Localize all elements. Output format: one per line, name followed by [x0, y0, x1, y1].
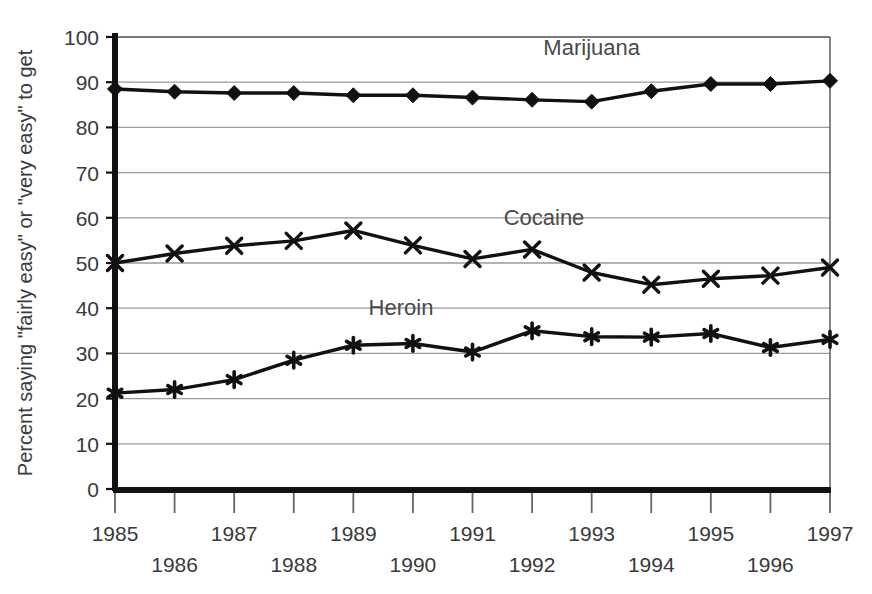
x-axis-ticks — [115, 493, 830, 513]
x-axis-tick-label: 1987 — [211, 522, 258, 545]
y-axis-tick-label: 60 — [76, 207, 99, 230]
y-axis-tick-label: 10 — [76, 433, 99, 456]
x-axis-tick-label: 1996 — [747, 553, 794, 576]
x-axis-tick-label: 1995 — [687, 522, 734, 545]
x-axis-tick-label: 1989 — [330, 522, 377, 545]
x-axis-tick-label: 1991 — [449, 522, 496, 545]
series-label-marijuana: Marijuana — [543, 35, 640, 60]
line-chart: 0102030405060708090100 19851986198719881… — [0, 0, 872, 594]
chart-container: 0102030405060708090100 19851986198719881… — [0, 0, 872, 594]
y-axis-tick-label: 70 — [76, 162, 99, 185]
x-axis-tick-labels: 1985198619871988198919901991199219931994… — [92, 522, 854, 576]
x-axis-tick-label: 1992 — [509, 553, 556, 576]
x-axis-tick-label: 1990 — [390, 553, 437, 576]
y-axis-tick-label: 40 — [76, 297, 99, 320]
x-axis-tick-label: 1985 — [92, 522, 139, 545]
y-axis-tick-label: 90 — [76, 71, 99, 94]
series-label-cocaine: Cocaine — [504, 205, 585, 230]
x-axis-tick-label: 1997 — [807, 522, 854, 545]
y-axis-title: Percent saying "fairly easy" or "very ea… — [14, 49, 36, 476]
y-axis-tick-label: 20 — [76, 388, 99, 411]
y-axis-tick-label: 100 — [64, 26, 99, 49]
x-axis-tick-label: 1986 — [151, 553, 198, 576]
y-axis-tick-labels: 0102030405060708090100 — [64, 26, 99, 501]
y-axis-tick-label: 0 — [87, 478, 99, 501]
y-axis-tick-label: 80 — [76, 116, 99, 139]
x-axis-tick-label: 1993 — [568, 522, 615, 545]
y-axis-tick-label: 50 — [76, 252, 99, 275]
series-label-heroin: Heroin — [369, 295, 434, 320]
x-axis-tick-label: 1988 — [270, 553, 317, 576]
y-axis-tick-label: 30 — [76, 342, 99, 365]
x-axis-tick-label: 1994 — [628, 553, 675, 576]
